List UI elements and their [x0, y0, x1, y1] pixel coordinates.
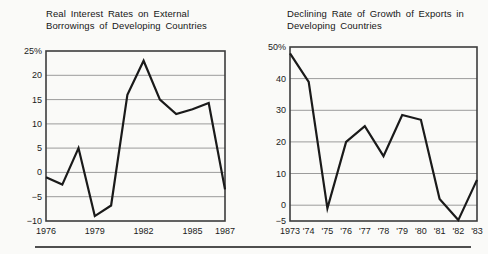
y-tick-label: 20: [32, 70, 42, 80]
plot-frame: [290, 47, 477, 221]
x-tick-label: '78: [378, 226, 390, 236]
y-tick-label: 20: [276, 137, 286, 147]
x-tick-label: '77: [359, 226, 371, 236]
chart-title-real-interest-rates: Real Interest Rates on External Borrowin…: [46, 8, 207, 32]
y-tick-label: 50%: [268, 44, 286, 52]
x-tick-label: '76: [340, 226, 352, 236]
x-tick-label: 1982: [134, 226, 154, 236]
x-tick-label: '80: [415, 226, 427, 236]
x-tick-label: '81: [434, 226, 446, 236]
x-tick-label: 1979: [85, 226, 105, 236]
y-tick-label: 15: [32, 95, 42, 105]
chart-title-line: Real Interest Rates on External: [46, 8, 207, 20]
x-tick-label: '79: [396, 226, 408, 236]
x-tick-label: '74: [303, 226, 315, 236]
y-tick-label: 10: [32, 119, 42, 129]
chart-title-line: Developing Countries: [287, 20, 464, 32]
x-tick-label: '75: [322, 226, 334, 236]
chart-title-export-growth: Declining Rate of Growth of Exports in D…: [287, 8, 464, 32]
y-tick-label: −10: [27, 216, 42, 226]
figure-bottom-rule: [35, 246, 471, 248]
y-tick-label: 0: [37, 167, 42, 177]
chart-title-line: Borrowings of Developing Countries: [46, 20, 207, 32]
y-tick-label: 0: [281, 200, 286, 210]
y-tick-label: 5: [37, 143, 42, 153]
y-tick-label: 10: [276, 169, 286, 179]
y-tick-label: −5: [32, 192, 42, 202]
x-tick-label: '82: [452, 226, 464, 236]
y-tick-label: 25%: [24, 46, 42, 56]
y-tick-label: 30: [276, 105, 286, 115]
x-tick-label: 1976: [36, 226, 56, 236]
data-line: [46, 61, 225, 216]
x-tick-label: 1973: [280, 226, 300, 236]
x-tick-label: 1985: [182, 226, 202, 236]
y-tick-label: −5: [276, 216, 286, 226]
y-tick-label: 40: [276, 74, 286, 84]
line-chart-export-growth: 50%403020100−51973'74'75'76'77'78'79'80'…: [244, 44, 488, 244]
line-chart-real-interest-rates: 25%20151050−5−1019761979198219851987: [0, 44, 244, 244]
x-tick-label: '83: [471, 226, 483, 236]
scanned-figure-page: Real Interest Rates on External Borrowin…: [0, 0, 488, 254]
chart-title-line: Declining Rate of Growth of Exports in: [287, 8, 464, 20]
x-tick-label: 1987: [215, 226, 235, 236]
